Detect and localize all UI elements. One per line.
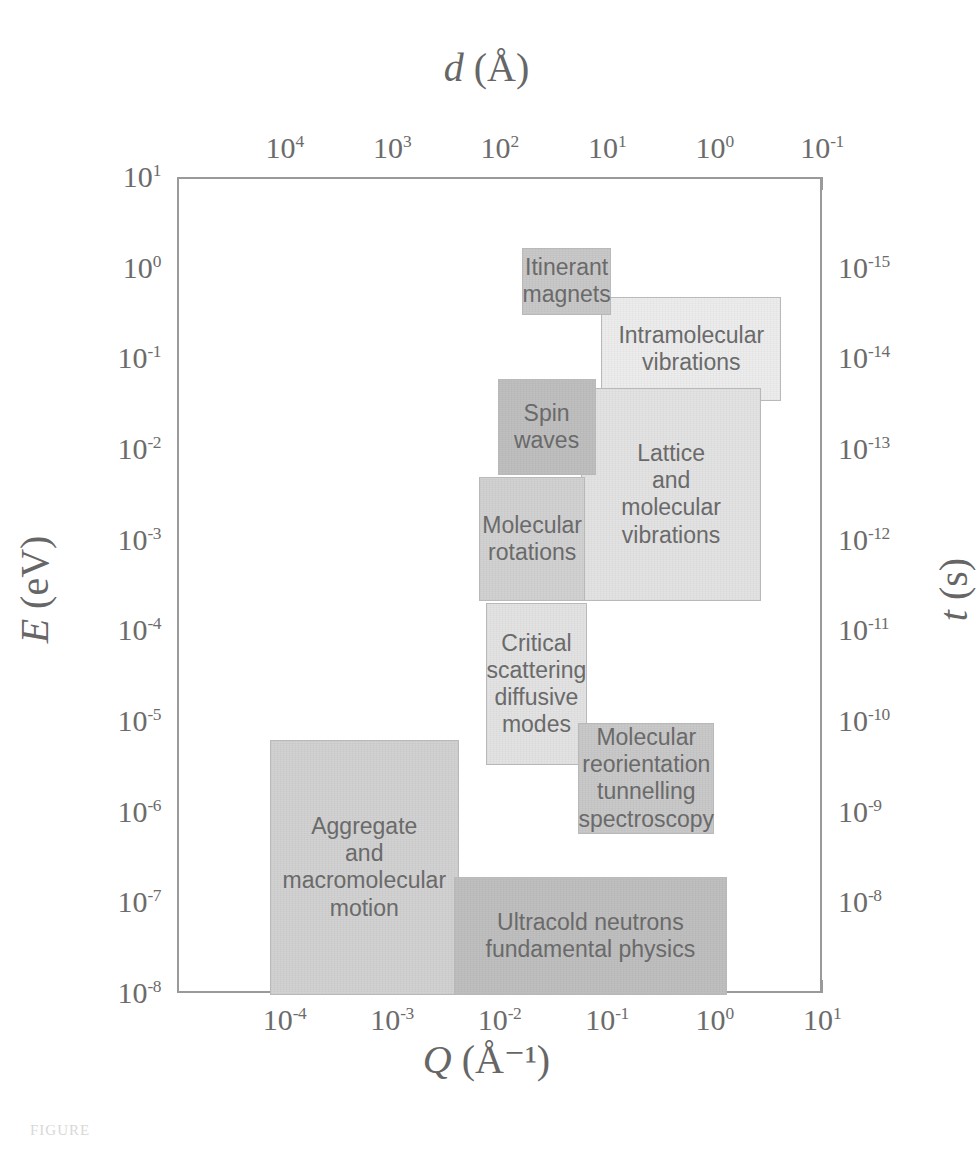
region-label-line: diffusive [487,684,587,711]
region-label-line: modes [487,711,587,738]
bottom-axis-title-symbol: Q [423,1037,452,1082]
region-label-line: Molecular [482,512,582,539]
right-tick-label: 10-10 [838,706,890,736]
region-box: Spinwaves [498,379,596,474]
region-label: Spinwaves [514,400,579,454]
bottom-tick-label: 100 [695,1005,733,1035]
region-label-line: tunnelling [579,778,715,805]
top-axis-title-symbol: d [444,45,464,90]
region-label: Molecularrotations [482,512,582,566]
left-tick-label: 10-2 [118,434,162,464]
top-tick-label: 103 [373,133,411,163]
left-tick-label: 10-3 [118,525,162,555]
region-label: Itinerantmagnets [523,254,611,308]
bottom-axis-title: Q (Å⁻¹) [0,1036,973,1083]
region-label-line: Itinerant [523,254,611,281]
left-tick-label: 10-6 [118,797,162,827]
right-tick-label: 10-12 [838,525,890,555]
region-label-line: Aggregate [282,813,446,840]
region-label: Intramolecularvibrations [618,322,764,376]
region-label-line: Lattice [621,440,721,467]
bottom-tick-label: 101 [803,1005,841,1035]
plot-area: ItinerantmagnetsIntramolecularvibrations… [177,177,822,993]
left-axis-title-symbol: E [12,619,57,643]
left-tick-label: 100 [123,253,161,283]
right-axis-title-symbol: t [931,610,976,621]
top-axis-title: d (Å) [0,44,973,91]
right-tick-label: 10-13 [838,434,890,464]
region-label-line: reorientation [579,751,715,778]
region-label: Latticeandmolecularvibrations [621,440,721,549]
top-axis-title-unit: (Å) [464,45,530,90]
top-tick-label: 102 [480,133,518,163]
region-label-line: motion [282,895,446,922]
region-label: Ultracold neutronsfundamental physics [486,909,696,963]
page-caption-fragment: FIGURE [30,1122,450,1138]
bottom-axis-title-unit: (Å⁻¹) [452,1037,551,1082]
top-tick-label: 10-1 [800,133,844,163]
region-box: Aggregateandmacromolecularmotion [270,740,459,995]
region-box: Itinerantmagnets [522,248,611,315]
region-box: Intramolecularvibrations [601,297,781,401]
region-label-line: vibrations [621,522,721,549]
right-tick-label: 10-9 [838,797,882,827]
region-label-line: Critical [487,630,587,657]
left-tick-label: 10-4 [118,615,162,645]
bottom-tick-label: 10-4 [263,1005,307,1035]
region-label-line: Intramolecular [618,322,764,349]
region-label: Criticalscatteringdiffusivemodes [487,630,587,739]
region-label: Molecularreorientationtunnellingspectros… [579,724,715,833]
right-tick-label: 10-8 [838,887,882,917]
left-axis-title: E (eV) [11,490,58,690]
left-tick-label: 10-1 [118,343,162,373]
region-label-line: Molecular [579,724,715,751]
region-label-line: Ultracold neutrons [486,909,696,936]
bottom-tick-label: 10-1 [585,1005,629,1035]
top-tick-label: 100 [695,133,733,163]
left-tick-label: 10-7 [118,887,162,917]
region-label-line: spectroscopy [579,806,715,833]
top-tick-label: 104 [265,133,303,163]
region-label-line: and [621,467,721,494]
region-label-line: Spin [514,400,579,427]
right-axis-title: t (s) [930,490,977,690]
left-tick-label: 10-8 [118,978,162,1008]
right-axis-title-unit: (s) [931,558,976,610]
region-box: Ultracold neutronsfundamental physics [454,877,727,995]
region-box: Molecularrotations [479,477,585,602]
region-label-line: fundamental physics [486,936,696,963]
right-tick-label: 10-11 [838,615,889,645]
right-tick-label: 10-15 [838,253,890,283]
top-tick-label: 101 [588,133,626,163]
region-box: Latticeandmolecularvibrations [581,388,761,602]
bottom-tick-label: 10-3 [370,1005,414,1035]
right-tick-label: 10-14 [838,343,890,373]
region-label-line: vibrations [618,349,764,376]
left-tick-label: 101 [123,162,161,192]
region-label-line: macromolecular [282,867,446,894]
region-label-line: scattering [487,657,587,684]
region-box: Criticalscatteringdiffusivemodes [486,603,587,765]
left-axis-title-unit: (eV) [12,536,57,619]
region-label-line: and [282,840,446,867]
region-label-line: magnets [523,281,611,308]
left-tick-label: 10-5 [118,706,162,736]
region-label-line: molecular [621,494,721,521]
region-label: Aggregateandmacromolecularmotion [282,813,446,922]
region-label-line: rotations [482,539,582,566]
region-box: Molecularreorientationtunnellingspectros… [578,723,714,834]
region-label-line: waves [514,427,579,454]
bottom-tick-label: 10-2 [478,1005,522,1035]
